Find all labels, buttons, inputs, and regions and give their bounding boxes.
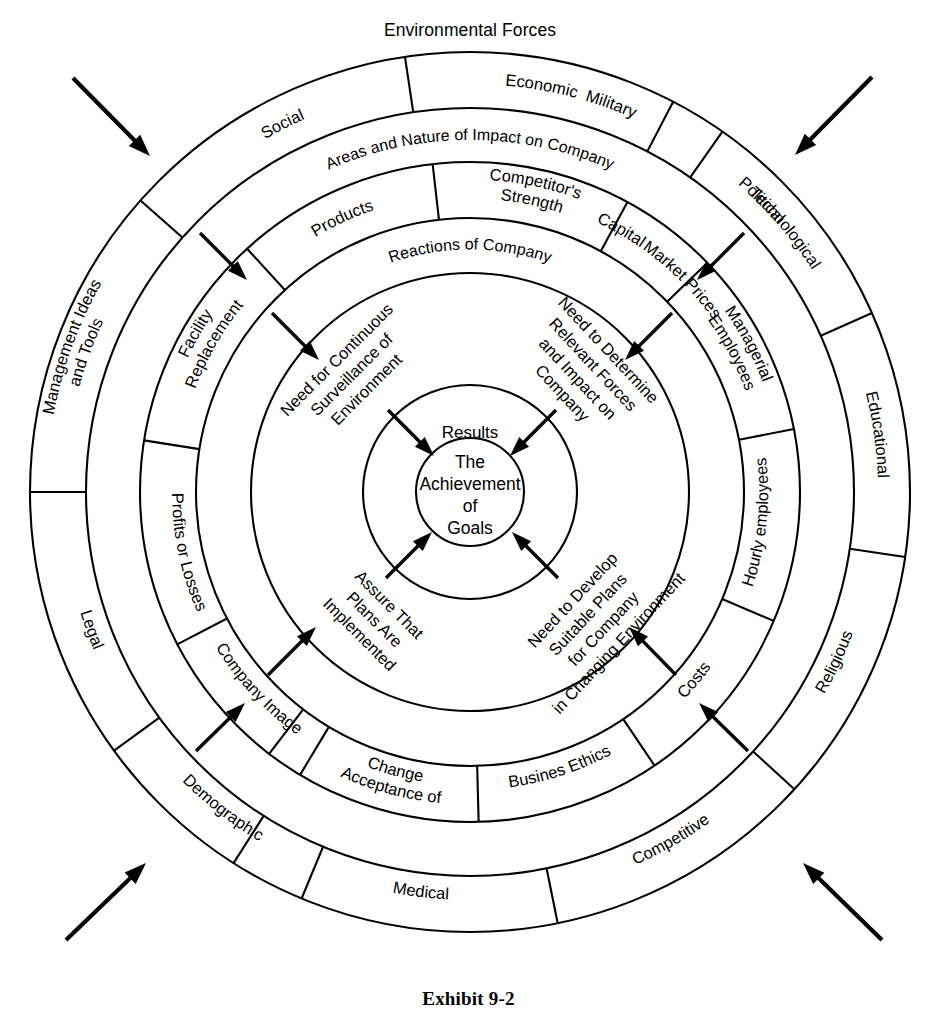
ring1-divider-6 — [114, 718, 159, 751]
ring5-text-determine: Need to DetermineRelevant Forcesand Impa… — [509, 293, 663, 450]
ring1-segment-1-path — [399, 84, 878, 632]
ring4-band-label: Reactions of Company — [386, 235, 554, 265]
ring1-segment-2-path — [623, 114, 878, 814]
exhibit-caption: Exhibit 9-2 — [0, 988, 937, 1010]
ring1-divider-10 — [647, 102, 673, 152]
ring1-divider-0 — [690, 132, 722, 178]
ring3-divider-5 — [300, 727, 329, 775]
ring3-divider-3 — [623, 719, 654, 765]
ring1-divider-1 — [821, 313, 872, 336]
ring1-segment-6-path — [62, 435, 623, 900]
ring1-segment-0: Military — [584, 86, 641, 121]
arrow-outer-bottom-left-shaft — [66, 875, 133, 940]
ring1-segment-5: Medical — [392, 878, 450, 903]
ring1-segment-7-path — [62, 230, 399, 894]
ring3-segment-3: Costs — [673, 658, 713, 701]
diagram-title: Environmental Forces — [384, 20, 556, 40]
ring3-segment-11: Market Prices — [640, 237, 725, 322]
ring1-divider-5 — [302, 847, 323, 899]
ring3-divider-9 — [433, 164, 439, 220]
arrow-outer-bottom-right-shaft — [816, 876, 882, 940]
ring1-divider-9 — [405, 57, 413, 112]
ring5-text-assure: Assure ThatPlans AreImplemented — [320, 564, 430, 674]
ring3-divider-7 — [144, 440, 199, 449]
arrow-ring4-top-right-shaft — [636, 313, 672, 349]
diagram-canvas: MilitaryTechnologicalEducationalReligiou… — [0, 0, 937, 1016]
arrow-outer-top-left-shaft — [73, 78, 137, 143]
ring1-segment-3: Religious — [811, 628, 856, 696]
concentric-rings-svg: MilitaryTechnologicalEducationalReligiou… — [0, 0, 937, 1016]
ring3-divider-8 — [247, 249, 285, 290]
arrow-center-top-right-shaft — [521, 410, 556, 445]
center-label-line-2: of — [463, 496, 478, 516]
arrow-ring4-top-left-shaft — [272, 313, 308, 349]
ring1-divider-2 — [850, 549, 905, 557]
arrow-ring2-bottom-right-shaft — [710, 714, 748, 751]
center-label-line-1: Achievement — [419, 474, 520, 494]
arrow-ring2-top-left-shaft — [200, 233, 236, 269]
ring1-divider-8 — [140, 200, 182, 237]
ring1-divider-3 — [753, 751, 794, 789]
ring1-segment-2: Educational — [863, 389, 893, 478]
arrow-center-top-left-shaft — [388, 410, 423, 445]
ring1-segment-4: Competitive — [629, 809, 712, 867]
center-label-line-3: Goals — [447, 518, 493, 538]
ring3-segment-7: Profits or Losses — [169, 493, 211, 614]
ring1-divider-4 — [547, 868, 558, 923]
ring1-segment-7: Legal — [77, 608, 108, 652]
arrow-ring2-bottom-left-shaft — [196, 714, 234, 751]
results-label: Results — [442, 423, 499, 442]
ring3-segment-0: Capital — [595, 209, 649, 251]
ring3-segment-9: Products — [308, 196, 376, 240]
ring3-divider-4 — [477, 766, 478, 822]
ring3-segment-4: Busines Ethics — [507, 741, 613, 791]
arrow-ring4-bottom-right-shaft — [640, 638, 676, 675]
ring3-divider-1 — [739, 429, 794, 440]
ring1-segment-11-path — [364, 84, 878, 598]
arrow-outer-top-right-shaft — [808, 77, 872, 142]
ring3-divider-2 — [722, 599, 774, 621]
ring3-divider-6 — [177, 619, 227, 645]
ring1-segment-10: Economic — [505, 71, 580, 101]
ring-labels-group: MilitaryTechnologicalEducationalReligiou… — [39, 20, 893, 902]
ring2-band-label-path — [165, 140, 775, 316]
arrow-ring4-bottom-left-shaft — [268, 638, 305, 675]
ring2-band-label: Areas and Nature of Impact on Company — [323, 126, 617, 172]
ring1-segment-9: Social — [258, 105, 307, 142]
ring3-segment-8-line-1-path — [177, 199, 471, 639]
arrow-ring2-top-right-shaft — [708, 233, 744, 269]
arrow-center-bottom-left-shaft — [386, 543, 421, 578]
center-label-line-0: The — [455, 452, 485, 472]
